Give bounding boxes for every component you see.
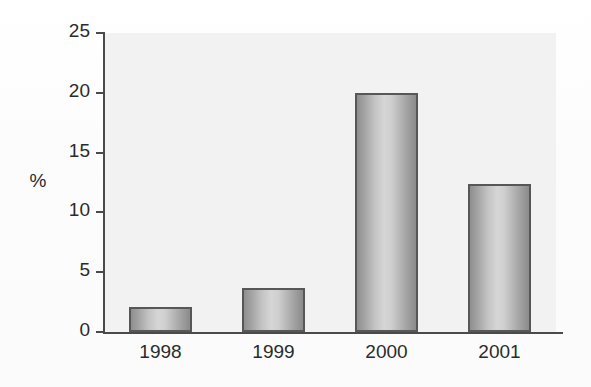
- y-axis-tick-label: 15: [44, 140, 90, 162]
- x-axis-tick-label: 2000: [342, 341, 432, 363]
- y-axis-tick-label: 20: [44, 80, 90, 102]
- y-axis-tick-label: 0: [44, 319, 90, 341]
- x-axis-tick-label: 1999: [229, 341, 319, 363]
- y-axis-tick-label: 10: [44, 199, 90, 221]
- bar: [355, 93, 418, 332]
- x-axis-tick-label: 1998: [116, 341, 206, 363]
- y-axis-tick: [96, 271, 105, 273]
- y-axis-tick: [96, 211, 105, 213]
- y-axis-tick-label: 5: [44, 259, 90, 281]
- y-axis-tick: [96, 92, 105, 94]
- y-axis-tick: [96, 331, 105, 333]
- y-axis-tick: [96, 152, 105, 154]
- y-axis-line: [103, 33, 105, 334]
- x-axis-tick-label: 2001: [455, 341, 545, 363]
- bar-chart: % 0510152025 1998199920002001: [0, 0, 591, 387]
- bar: [129, 307, 192, 332]
- y-axis-title: %: [18, 170, 58, 192]
- y-axis-tick: [96, 32, 105, 34]
- x-axis-line: [103, 332, 563, 334]
- bar: [468, 184, 531, 332]
- y-axis-tick-label: 25: [44, 20, 90, 42]
- bar: [242, 288, 305, 332]
